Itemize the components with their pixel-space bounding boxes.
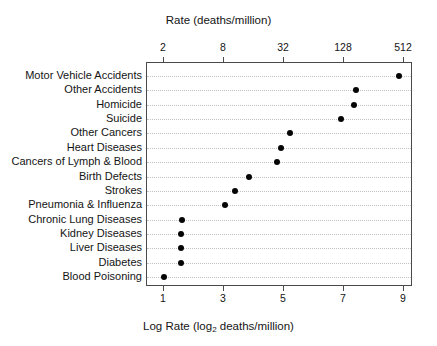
data-point — [178, 260, 184, 266]
top-axis-tick-label: 32 — [277, 42, 289, 53]
bottom-axis-tick-label: 5 — [280, 293, 286, 304]
data-point — [351, 102, 357, 108]
bottom-axis-tick-mark — [223, 286, 224, 291]
gridline — [147, 119, 411, 120]
data-point — [178, 231, 184, 237]
y-axis-label: Homicide — [2, 98, 142, 109]
bottom-axis-tick-mark — [163, 286, 164, 291]
gridline — [147, 90, 411, 91]
y-axis-label: Diabetes — [2, 256, 142, 267]
y-axis-category-labels: Motor Vehicle AccidentsOther AccidentsHo… — [0, 62, 142, 286]
y-axis-label: Liver Diseases — [2, 242, 142, 253]
gridline — [147, 191, 411, 192]
gridline — [147, 248, 411, 249]
y-axis-label: Pneumonia & Influenza — [2, 199, 142, 210]
gridline — [147, 177, 411, 178]
gridline — [147, 133, 411, 134]
y-axis-label: Cancers of Lymph & Blood — [2, 156, 142, 167]
data-point — [338, 116, 344, 122]
y-axis-label: Motor Vehicle Accidents — [2, 70, 142, 81]
top-axis-tick-label: 8 — [220, 42, 226, 53]
bottom-axis-tick-label: 7 — [340, 293, 346, 304]
gridline — [147, 76, 411, 77]
data-point — [232, 188, 238, 194]
top-axis-tick-label: 2 — [160, 42, 166, 53]
chart-screenshot: Rate (deaths/million) 2832128512 Motor V… — [0, 0, 437, 346]
y-axis-label: Birth Defects — [2, 170, 142, 181]
top-axis-tick-label: 512 — [394, 42, 412, 53]
bottom-axis-title-prefix: Log Rate (log — [143, 320, 212, 332]
bottom-axis-tick-mark — [403, 286, 404, 291]
gridline — [147, 205, 411, 206]
data-point — [222, 202, 228, 208]
y-axis-label: Other Cancers — [2, 127, 142, 138]
data-point — [246, 174, 252, 180]
data-point — [287, 130, 293, 136]
gridline — [147, 105, 411, 106]
bottom-axis-title-suffix: deaths/million) — [217, 320, 294, 332]
gridline — [147, 220, 411, 221]
bottom-axis-tick-mark — [343, 286, 344, 291]
bottom-axis-tick-label: 3 — [220, 293, 226, 304]
y-axis-label: Blood Poisoning — [2, 271, 142, 282]
bottom-axis-tick-label: 1 — [160, 293, 166, 304]
plot-inner — [147, 63, 411, 285]
data-point — [396, 73, 402, 79]
gridline — [147, 263, 411, 264]
data-point — [179, 217, 185, 223]
y-axis-label: Chronic Lung Diseases — [2, 213, 142, 224]
data-point — [178, 245, 184, 251]
gridline — [147, 277, 411, 278]
bottom-axis-tick-label: 9 — [400, 293, 406, 304]
y-axis-label: Other Accidents — [2, 84, 142, 95]
gridline — [147, 234, 411, 235]
bottom-axis: 13579 — [0, 286, 437, 320]
data-point — [278, 145, 284, 151]
y-axis-label: Strokes — [2, 184, 142, 195]
top-axis: 2832128512 — [0, 0, 437, 62]
y-axis-label: Kidney Diseases — [2, 227, 142, 238]
plot-area — [146, 62, 412, 286]
data-point — [353, 87, 359, 93]
bottom-axis-tick-mark — [283, 286, 284, 291]
top-axis-tick-label: 128 — [334, 42, 352, 53]
data-point — [274, 159, 280, 165]
y-axis-label: Suicide — [2, 113, 142, 124]
y-axis-label: Heart Diseases — [2, 141, 142, 152]
data-point — [161, 274, 167, 280]
bottom-axis-title: Log Rate (log2 deaths/million) — [0, 320, 437, 334]
